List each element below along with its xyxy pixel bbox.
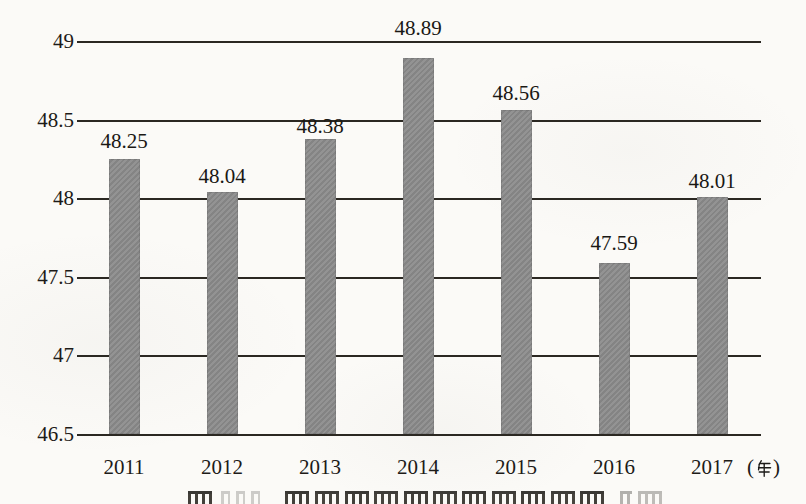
x-tick-label: 2017 xyxy=(664,455,760,479)
y-tick-label: 49 xyxy=(0,28,74,54)
unit-open-paren: ( xyxy=(747,455,754,479)
y-tick-label: 47.5 xyxy=(0,264,74,290)
year-character-icon xyxy=(755,459,772,478)
x-tick-label: 2015 xyxy=(468,455,564,479)
x-tick-label: 2016 xyxy=(566,455,662,479)
bar-value-label: 48.01 xyxy=(664,170,760,193)
bar-2014 xyxy=(403,58,434,434)
bar-2016 xyxy=(599,263,630,434)
bar-value-label: 48.38 xyxy=(272,115,368,138)
x-tick-label: 2014 xyxy=(370,455,466,479)
bar-value-label: 47.59 xyxy=(566,232,662,255)
gridline-49 xyxy=(77,41,761,43)
bar-chart-figure: 4948.54847.54746.548.25201148.04201248.3… xyxy=(0,0,806,504)
bar-value-label: 48.89 xyxy=(370,17,466,40)
bar-value-label: 48.04 xyxy=(174,165,270,188)
gridline-46.5 xyxy=(77,434,761,436)
bar-2012 xyxy=(207,192,238,434)
bar-2017 xyxy=(697,197,728,434)
plot-area: 4948.54847.54746.548.25201148.04201248.3… xyxy=(0,0,806,504)
bar-value-label: 48.56 xyxy=(468,82,564,105)
bar-2013 xyxy=(305,139,336,435)
x-tick-label: 2013 xyxy=(272,455,368,479)
y-tick-label: 47 xyxy=(0,342,74,368)
bar-2015 xyxy=(501,110,532,434)
y-tick-label: 48.5 xyxy=(0,107,74,133)
x-tick-label: 2012 xyxy=(174,455,270,479)
x-tick-label: 2011 xyxy=(76,455,172,479)
bar-value-label: 48.25 xyxy=(76,130,172,153)
y-tick-label: 46.5 xyxy=(0,421,74,447)
bar-2011 xyxy=(109,159,140,434)
y-tick-label: 48 xyxy=(0,185,74,211)
unit-close-paren: ) xyxy=(773,455,780,479)
x-axis-unit-label: ( ) xyxy=(747,455,780,479)
